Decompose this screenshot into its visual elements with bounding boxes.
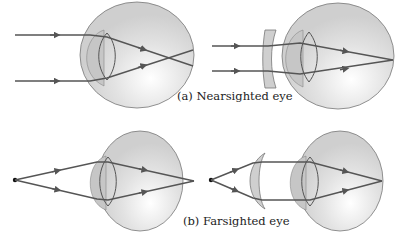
ray-arrow	[230, 170, 236, 172]
caption-nearsighted: (a) Nearsighted eye	[177, 89, 293, 103]
eye-optics-diagram	[0, 0, 406, 241]
eyeball	[297, 131, 383, 231]
concave-corrective-lens	[263, 30, 276, 88]
caption-farsighted: (b) Farsighted eye	[183, 214, 289, 228]
ray-arrow	[52, 171, 58, 172]
ray-arrow	[230, 188, 236, 191]
eyeball	[97, 131, 183, 231]
ray-arrow	[52, 189, 58, 190]
nearsighted-uncorrected-eye	[15, 2, 194, 108]
cornea	[290, 156, 306, 210]
farsighted-uncorrected-eye	[13, 131, 194, 231]
